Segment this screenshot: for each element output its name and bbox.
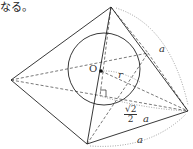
o-to-right <box>101 71 188 111</box>
edge-apex-right <box>111 7 188 111</box>
height-line <box>100 7 111 96</box>
label-o: O <box>89 64 97 74</box>
inscribed-sphere <box>68 33 140 105</box>
right-angle-mark <box>100 90 106 96</box>
edge-left-back <box>11 53 148 80</box>
edge-left-bottom <box>11 80 87 144</box>
center-point-o <box>99 69 103 73</box>
label-edge-bottom-a: a <box>137 135 143 145</box>
edge-apex-bottom <box>87 7 111 144</box>
diagonal-left-right <box>11 80 188 111</box>
fraction-denominator: 2 <box>124 115 137 124</box>
pyramid-diagram <box>0 0 193 149</box>
label-r: r <box>118 70 123 80</box>
arc-edge-top <box>116 8 188 105</box>
label-edge-top-a: a <box>159 44 165 54</box>
half-diagonal-fraction: √2 2 <box>124 105 137 124</box>
fraction-variable-a: a <box>143 114 149 124</box>
visible-edges <box>11 7 188 144</box>
